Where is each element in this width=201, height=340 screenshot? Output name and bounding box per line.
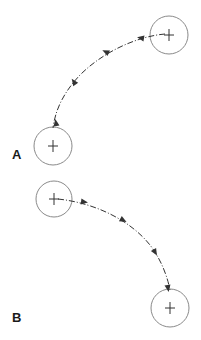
- arrowhead-icon: [151, 248, 160, 257]
- panel-a: [34, 16, 188, 165]
- panel-b: [36, 181, 189, 327]
- crosshair-icon: [165, 302, 175, 314]
- crosshair-icon: [49, 193, 59, 205]
- arrowhead-icon: [165, 285, 172, 293]
- arrowhead-icon: [52, 119, 59, 127]
- crosshair-icon: [48, 140, 58, 152]
- arrowhead-icon: [137, 34, 145, 41]
- panel-label-b: B: [12, 311, 21, 324]
- motion-path: [53, 34, 165, 128]
- panel-label-a: A: [12, 148, 21, 161]
- diagram-canvas: [0, 0, 201, 340]
- crosshair-icon: [164, 29, 174, 41]
- arrowhead-icon: [119, 216, 128, 225]
- motion-path: [58, 199, 170, 290]
